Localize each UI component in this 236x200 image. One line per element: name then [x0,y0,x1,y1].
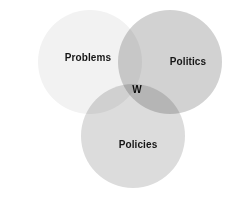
venn-set-label-problems: Problems [65,53,111,63]
venn-set-label-politics: Politics [170,57,206,67]
venn-circle-policies [81,84,185,188]
venn-diagram-canvas [0,0,236,200]
venn-triple-intersection-label: W [132,85,141,95]
venn-diagram: Problems Politics Policies W [0,0,236,200]
venn-set-label-policies: Policies [119,140,158,150]
